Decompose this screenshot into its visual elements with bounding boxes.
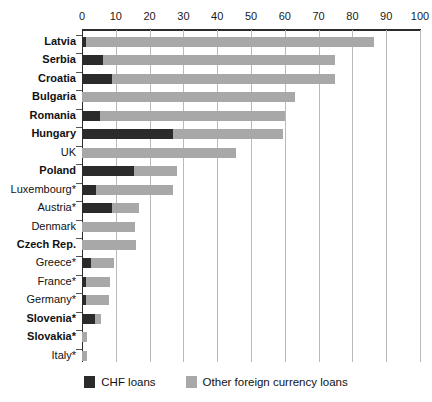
y-tick-mark [76, 72, 82, 73]
x-tick-label: 90 [380, 10, 392, 23]
chart-row: Croatia [0, 71, 432, 89]
chart-legend: CHF loansOther foreign currency loans [0, 371, 432, 393]
bar-segment-other-foreign-currency-loans [112, 74, 335, 84]
y-tick-mark [76, 256, 82, 257]
category-label: Serbia [0, 52, 76, 66]
chart-row: Austria* [0, 200, 432, 218]
bar-segment-other-foreign-currency-loans [82, 148, 236, 158]
bar-segment-chf-loans [82, 258, 91, 268]
y-tick-mark [76, 109, 82, 110]
bar-segment-other-foreign-currency-loans [86, 295, 109, 305]
category-label: Denmark [0, 219, 76, 233]
category-label: UK [0, 145, 76, 159]
bar-segment-chf-loans [82, 111, 100, 121]
y-tick-mark [76, 293, 82, 294]
category-label: Bulgaria [0, 89, 76, 103]
bar-segment-other-foreign-currency-loans [96, 185, 173, 195]
y-tick-mark [76, 146, 82, 147]
x-tick-label: 40 [211, 10, 223, 23]
y-tick-mark [76, 127, 82, 128]
chart-row: Latvia [0, 34, 432, 52]
bar-segment-chf-loans [82, 314, 95, 324]
category-label: Croatia [0, 71, 76, 85]
category-label: Austria* [0, 200, 76, 214]
chart-row: Luxembourg* [0, 182, 432, 200]
chart-row: Slovenia* [0, 311, 432, 329]
chart-row: Poland [0, 163, 432, 181]
bar-segment-other-foreign-currency-loans [95, 314, 101, 324]
chart-row: Italy* [0, 348, 432, 366]
y-tick-mark [76, 183, 82, 184]
chart-row: Slovakia* [0, 329, 432, 347]
bar-segment-other-foreign-currency-loans [86, 277, 110, 287]
other-currency-swatch-icon [186, 376, 197, 388]
chart-row: Denmark [0, 219, 432, 237]
x-tick-label: 100 [411, 10, 429, 23]
category-label: Hungary [0, 126, 76, 140]
category-label: Slovakia* [0, 329, 76, 343]
chf-swatch-icon [84, 376, 95, 388]
y-tick-mark [76, 330, 82, 331]
x-tick-label: 10 [110, 10, 122, 23]
category-label: Romania [0, 108, 76, 122]
bar-segment-other-foreign-currency-loans [82, 92, 295, 102]
legend-entry: CHF loans [84, 376, 155, 388]
y-tick-mark [76, 201, 82, 202]
x-tick-label: 70 [312, 10, 324, 23]
y-tick-mark [76, 238, 82, 239]
chart-row: Germany* [0, 292, 432, 310]
x-tick-label: 20 [143, 10, 155, 23]
chart-row: Greece* [0, 255, 432, 273]
bar-segment-chf-loans [82, 203, 112, 213]
chart-row: Bulgaria [0, 89, 432, 107]
chart-row: UK [0, 145, 432, 163]
bar-segment-other-foreign-currency-loans [82, 351, 87, 361]
bar-segment-chf-loans [82, 166, 134, 176]
bar-segment-other-foreign-currency-loans [134, 166, 176, 176]
legend-label: CHF loans [101, 376, 155, 388]
category-label: Italy* [0, 348, 76, 362]
chart-row: Hungary [0, 126, 432, 144]
bar-segment-other-foreign-currency-loans [82, 222, 135, 232]
y-tick-mark [76, 90, 82, 91]
legend-entry: Other foreign currency loans [186, 376, 348, 388]
y-tick-mark [76, 164, 82, 165]
x-tick-label: 0 [79, 10, 85, 23]
chart-row: France* [0, 274, 432, 292]
bar-segment-other-foreign-currency-loans [103, 55, 336, 65]
chart-row: Czech Rep. [0, 237, 432, 255]
bar-segment-other-foreign-currency-loans [112, 203, 138, 213]
bar-segment-other-foreign-currency-loans [82, 240, 136, 250]
chart-row: Romania [0, 108, 432, 126]
x-tick-label: 50 [245, 10, 257, 23]
bar-segment-chf-loans [82, 55, 103, 65]
bar-segment-other-foreign-currency-loans [100, 111, 286, 121]
bar-segment-chf-loans [82, 185, 96, 195]
bar-segment-chf-loans [82, 129, 173, 139]
category-label: Luxembourg* [0, 182, 76, 196]
y-tick-mark [76, 53, 82, 54]
category-label: Greece* [0, 255, 76, 269]
y-tick-mark [76, 312, 82, 313]
x-tick-label: 60 [279, 10, 291, 23]
bar-segment-other-foreign-currency-loans [86, 37, 374, 47]
category-label: Germany* [0, 292, 76, 306]
category-label: Latvia [0, 34, 76, 48]
category-label: Czech Rep. [0, 237, 76, 251]
bar-segment-other-foreign-currency-loans [91, 258, 114, 268]
chart-row: Serbia [0, 52, 432, 70]
bar-segment-chf-loans [82, 74, 112, 84]
y-tick-mark [76, 349, 82, 350]
foreign-currency-loans-chart: 0102030405060708090100 CHF loansOther fo… [0, 0, 432, 402]
y-tick-mark [76, 220, 82, 221]
legend-label: Other foreign currency loans [203, 376, 348, 388]
category-label: Slovenia* [0, 311, 76, 325]
x-tick-label: 30 [177, 10, 189, 23]
y-tick-mark [76, 275, 82, 276]
x-axis: 0102030405060708090100 [0, 10, 432, 26]
category-label: Poland [0, 163, 76, 177]
bar-segment-other-foreign-currency-loans [173, 129, 283, 139]
y-tick-mark [76, 35, 82, 36]
bar-segment-other-foreign-currency-loans [82, 332, 87, 342]
category-label: France* [0, 274, 76, 288]
